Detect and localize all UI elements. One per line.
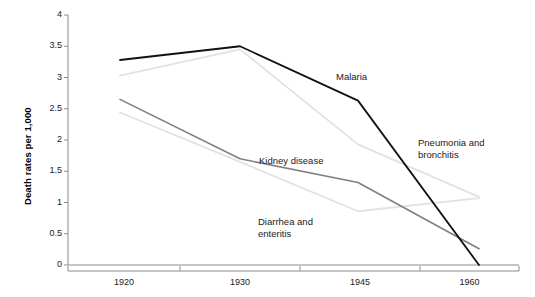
series-annotation-diarrhea-and-enteritis: Diarrhea andenteritis: [258, 216, 313, 240]
series-annotation-kidney-disease: Kidney disease: [259, 155, 323, 167]
y-tick-label: 3.5: [22, 40, 62, 50]
annotation-line: enteritis: [258, 228, 313, 240]
y-tick-label: 0.5: [22, 228, 62, 238]
x-tick-label: 1930: [210, 277, 270, 287]
series-annotation-malaria: Malaria: [336, 71, 367, 83]
y-tick-label: 4: [22, 9, 62, 19]
chart-container: Death rates per 1,000 00.511.522.533.54 …: [0, 0, 535, 297]
series-line-pneumonia-and-bronchitis: [120, 49, 479, 197]
annotation-line: Kidney disease: [259, 155, 323, 167]
x-tick-label: 1945: [330, 277, 390, 287]
annotation-line: Pneumonia and: [418, 137, 485, 149]
series-annotation-pneumonia-and-bronchitis: Pneumonia andbronchitis: [418, 137, 485, 161]
y-tick-label: 0: [22, 259, 62, 269]
y-tick-label: 1: [22, 197, 62, 207]
x-tick-label: 1920: [94, 277, 154, 287]
annotation-line: Malaria: [336, 71, 367, 83]
y-tick-label: 3: [22, 72, 62, 82]
annotation-line: Diarrhea and: [258, 216, 313, 228]
y-tick-label: 1.5: [22, 165, 62, 175]
x-tick-label: 1960: [440, 277, 500, 287]
y-tick-label: 2: [22, 134, 62, 144]
annotation-line: bronchitis: [418, 149, 485, 161]
y-axis-title: Death rates per 1,000: [22, 107, 33, 205]
y-tick-label: 2.5: [22, 103, 62, 113]
